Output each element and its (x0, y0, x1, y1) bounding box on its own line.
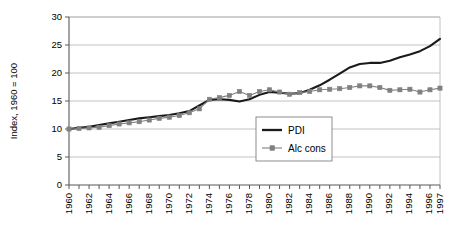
series-marker (418, 90, 422, 94)
series-marker (127, 121, 131, 125)
legend-swatch-marker (270, 146, 275, 151)
series-marker (207, 97, 211, 101)
series-marker (428, 88, 432, 92)
series-marker (67, 127, 71, 131)
series-line-pdi (69, 39, 440, 129)
series-marker (298, 91, 302, 95)
series-marker (378, 85, 382, 89)
x-axis-ticks (69, 185, 440, 189)
series-marker (97, 125, 101, 129)
series-marker (87, 126, 91, 130)
series-line-alc-cons (69, 86, 440, 129)
series-marker (328, 87, 332, 91)
x-axis-tick-labels: 1960196219641966196819701972197419761978… (63, 193, 445, 214)
x-tick-label: 1997 (434, 193, 445, 214)
series-marker (408, 87, 412, 91)
series-marker (117, 122, 121, 126)
series-marker (438, 86, 442, 90)
data-series (67, 39, 442, 131)
series-marker (237, 89, 241, 93)
x-tick-label: 1992 (383, 193, 394, 214)
series-marker (398, 88, 402, 92)
series-marker (338, 87, 342, 91)
y-tick-label: 20 (51, 67, 62, 78)
y-axis-title: Index, 1960 = 100 (8, 63, 19, 139)
x-tick-label: 1986 (323, 193, 334, 214)
series-marker (277, 90, 281, 94)
x-tick-label: 1988 (343, 193, 354, 214)
x-tick-label: 1980 (263, 193, 274, 214)
x-tick-label: 1994 (403, 193, 414, 214)
x-tick-label: 1984 (303, 193, 314, 214)
series-marker (388, 88, 392, 92)
x-tick-label: 1976 (223, 193, 234, 214)
series-marker (287, 92, 291, 96)
y-tick-label: 5 (57, 151, 62, 162)
series-marker (348, 85, 352, 89)
x-tick-label: 1978 (243, 193, 254, 214)
x-tick-label: 1990 (363, 193, 374, 214)
series-marker (187, 111, 191, 115)
y-tick-label: 0 (57, 179, 62, 190)
series-marker (157, 116, 161, 120)
series-marker (368, 84, 372, 88)
x-tick-label: 1968 (143, 193, 154, 214)
y-tick-label: 30 (51, 11, 62, 22)
x-tick-label: 1962 (83, 193, 94, 214)
legend-box (256, 117, 332, 161)
series-marker (308, 89, 312, 93)
y-axis-title-label: Index, 1960 = 100 (8, 63, 19, 139)
gridlines (69, 17, 440, 185)
y-axis-tick-labels: 051015202530 (51, 11, 69, 190)
x-tick-label: 1970 (163, 193, 174, 214)
y-tick-label: 10 (51, 123, 62, 134)
x-tick-label: 1960 (63, 193, 74, 214)
series-marker (137, 120, 141, 124)
series-marker (257, 89, 261, 93)
line-chart: 051015202530 196019621964196619681970197… (0, 0, 464, 235)
y-tick-label: 15 (51, 95, 62, 106)
chart-container: 051015202530 196019621964196619681970197… (0, 0, 464, 235)
series-marker (247, 93, 251, 97)
x-tick-label: 1982 (283, 193, 294, 214)
series-marker (358, 84, 362, 88)
series-marker (217, 96, 221, 100)
series-marker (227, 93, 231, 97)
legend-label: Alc cons (288, 143, 326, 154)
chart-legend: PDIAlc cons (256, 117, 332, 161)
series-marker (77, 126, 81, 130)
series-marker (147, 118, 151, 122)
series-marker (107, 124, 111, 128)
x-tick-label: 1966 (123, 193, 134, 214)
series-marker (177, 113, 181, 117)
series-marker (318, 88, 322, 92)
series-marker (197, 107, 201, 111)
series-marker (267, 88, 271, 92)
x-tick-label: 1972 (183, 193, 194, 214)
x-tick-label: 1974 (203, 193, 214, 214)
series-marker (167, 115, 171, 119)
y-tick-label: 25 (51, 39, 62, 50)
x-tick-label: 1964 (103, 193, 114, 214)
legend-label: PDI (288, 125, 305, 136)
